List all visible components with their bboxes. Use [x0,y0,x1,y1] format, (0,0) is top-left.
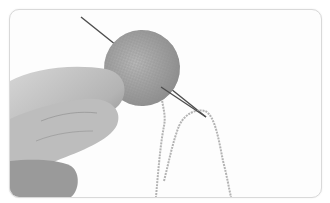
hand [10,67,125,197]
photo-frame [9,9,322,198]
knitting-photo [10,10,321,197]
yarn-strand-right [164,111,231,197]
